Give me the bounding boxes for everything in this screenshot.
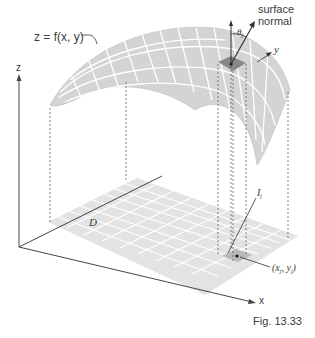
region-d-label: D xyxy=(88,216,97,228)
x-axis-arrow xyxy=(248,299,256,304)
y-axis-label: y xyxy=(273,43,279,55)
normal-label-line2: normal xyxy=(258,15,292,27)
z-axis-arrow xyxy=(17,74,22,81)
vertical-arrow xyxy=(229,20,233,26)
point-xj-yj xyxy=(235,254,238,257)
patch-label: Ij xyxy=(256,187,262,199)
surface-area-diagram: z = f(x, y) surface normal θj y z D Ij (… xyxy=(0,0,315,338)
point-label: (xj, yj) xyxy=(272,262,297,274)
normal-label-line1: surface xyxy=(258,3,294,15)
z-axis-label: z xyxy=(16,62,21,73)
x-axis-label: x xyxy=(259,295,264,306)
figure-caption: Fig. 13.33 xyxy=(253,315,302,327)
angle-label: θj xyxy=(237,27,243,38)
surface-label: z = f(x, y) xyxy=(34,30,84,44)
